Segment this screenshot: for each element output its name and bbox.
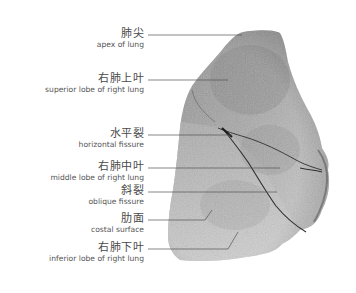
label-zh: 斜裂 — [88, 185, 144, 196]
label-en: costal surface — [91, 226, 144, 234]
label-zh: 右肺中叶 — [50, 161, 144, 172]
label-zh: 水平裂 — [79, 128, 144, 139]
label-en: superior lobe of right lung — [45, 86, 144, 94]
label-en: inferior lobe of right lung — [49, 255, 144, 263]
label-en: middle lobe of right lung — [50, 174, 144, 182]
label-superior-lobe: 右肺上叶 superior lobe of right lung — [45, 73, 144, 94]
label-en: apex of lung — [97, 41, 144, 49]
label-zh: 肺尖 — [97, 28, 144, 39]
label-apex-of-lung: 肺尖 apex of lung — [97, 28, 144, 49]
label-horizontal-fissure: 水平裂 horizontal fissure — [79, 128, 144, 149]
label-en: horizontal fissure — [79, 141, 144, 149]
label-zh: 右肺上叶 — [45, 73, 144, 84]
label-inferior-lobe: 右肺下叶 inferior lobe of right lung — [49, 242, 144, 263]
label-zh: 肋面 — [91, 213, 144, 224]
label-oblique-fissure: 斜裂 oblique fissure — [88, 185, 144, 206]
label-zh: 右肺下叶 — [49, 242, 144, 253]
label-en: oblique fissure — [88, 198, 144, 206]
lung-diagram: 肺尖 apex of lung 右肺上叶 superior lobe of ri… — [0, 0, 356, 293]
label-costal-surface: 肋面 costal surface — [91, 213, 144, 234]
label-middle-lobe: 右肺中叶 middle lobe of right lung — [50, 161, 144, 182]
